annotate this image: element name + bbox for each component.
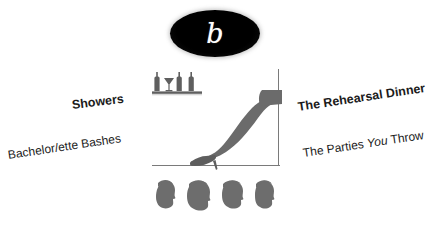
label-showers: Showers — [71, 93, 124, 112]
logo-script-letter: b — [170, 19, 260, 46]
parties-emphasis: You — [366, 133, 389, 150]
bottle-icon — [189, 72, 194, 91]
liquor-bottles-icon — [152, 70, 204, 100]
head-silhouette-icon — [255, 180, 274, 208]
parties-suffix: Throw — [386, 128, 424, 147]
martini-glass-icon — [164, 78, 174, 91]
head-silhouette-icon — [187, 180, 210, 210]
slide-canvas: b — [0, 0, 435, 227]
label-bachelor-ette-bashes: Bachelor/ette Bashes — [7, 132, 122, 161]
bar-shelf-shadow — [152, 94, 202, 95]
bar-shelf-icon — [152, 91, 202, 93]
brand-logo: b — [170, 10, 260, 57]
head-silhouette-icon — [222, 180, 243, 208]
guest-head-silhouettes — [152, 179, 284, 221]
bottle-icon — [177, 72, 182, 91]
parties-prefix: The Parties — [302, 137, 368, 160]
bottle-icon — [154, 72, 159, 91]
label-rehearsal-dinner: The Rehearsal Dinner — [297, 82, 426, 113]
label-parties-you-throw: The Parties You Throw — [302, 129, 424, 159]
head-silhouette-icon — [156, 180, 175, 208]
